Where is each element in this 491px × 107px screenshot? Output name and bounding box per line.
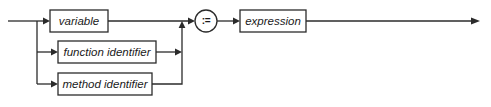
assign-operator-label: := (202, 15, 211, 26)
method-identifier-label: method identifier (62, 78, 148, 90)
node-assign-operator[interactable]: := (195, 10, 217, 32)
variable-label: variable (59, 15, 99, 27)
arrow-into-operator-icon (188, 18, 195, 25)
node-method-identifier[interactable]: method identifier (58, 73, 152, 95)
function-identifier-label: function identifier (64, 46, 152, 58)
node-expression[interactable]: expression (240, 10, 306, 32)
arrow-merge-up-icon (179, 21, 186, 28)
syntax-diagram: variable function identifier method iden… (0, 0, 491, 107)
node-function-identifier[interactable]: function identifier (58, 41, 156, 63)
arrow-into-variable-icon (43, 18, 50, 25)
arrow-into-expression-icon (233, 18, 240, 25)
railroad-diagram-canvas: variable function identifier method iden… (0, 0, 491, 107)
arrow-function-merge-icon (175, 49, 182, 56)
arrow-into-method-icon (51, 81, 58, 88)
arrow-into-function-icon (51, 49, 58, 56)
arrow-exit-icon (471, 17, 480, 24)
expression-label: expression (245, 15, 301, 27)
node-variable[interactable]: variable (50, 10, 108, 32)
